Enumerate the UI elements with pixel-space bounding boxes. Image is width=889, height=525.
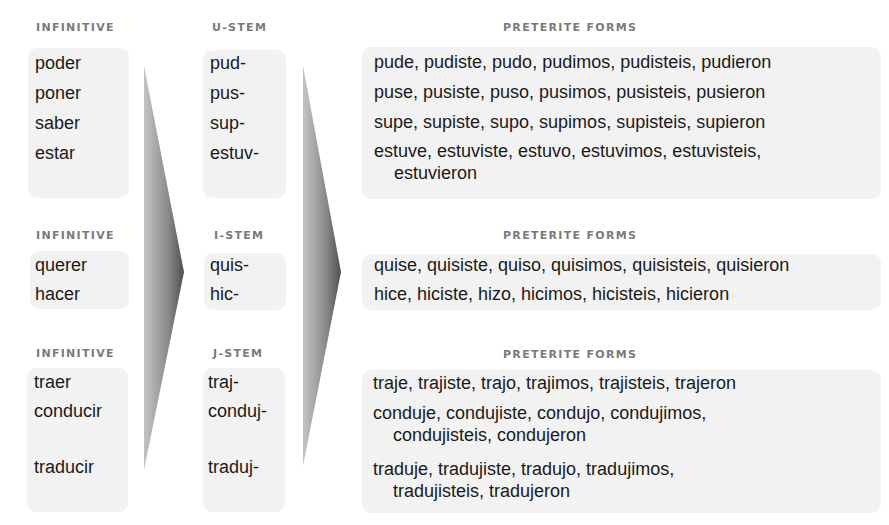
- stem: conduj-: [208, 400, 267, 422]
- preterite-form-continuation: estuvieron: [374, 162, 477, 184]
- preterite-form-row: quise, quisiste, quiso, quisimos, quisis…: [374, 254, 789, 276]
- right-arrow-icon: [140, 66, 188, 476]
- preterite-form-row: estuve, estuviste, estuvo, estuvimos, es…: [374, 140, 761, 162]
- infinitive-box: querer hacer: [30, 251, 129, 309]
- preterite-form-continuation: tradujisteis, tradujeron: [373, 480, 570, 502]
- infinitive-label: INFINITIVE: [36, 229, 115, 242]
- infinitive-box: traer conducir traducir: [27, 368, 128, 512]
- stem: estuv-: [210, 142, 259, 164]
- stem: quis-: [210, 254, 249, 276]
- stem-box: pud- pus- sup- estuv-: [203, 50, 286, 198]
- infinitive: hacer: [35, 283, 80, 305]
- stem: traduj-: [208, 456, 259, 478]
- preterite-form-row: supe, supiste, supo, supimos, supisteis,…: [374, 111, 765, 133]
- stem-label: J-STEM: [213, 347, 263, 360]
- preterite-forms-box: pude, pudiste, pudo, pudimos, pudisteis,…: [362, 47, 881, 199]
- stem-box: traj- conduj- traduj-: [203, 368, 285, 512]
- preterite-form-continuation: condujisteis, condujeron: [373, 424, 586, 446]
- preterite-form-row: traduje, tradujiste, tradujo, tradujimos…: [373, 458, 674, 480]
- infinitive: querer: [35, 254, 87, 276]
- preterite-forms-label: PRETERITE FORMS: [503, 229, 637, 242]
- infinitive: estar: [35, 142, 75, 164]
- preterite-forms-label: PRETERITE FORMS: [503, 348, 637, 361]
- stem: pus-: [210, 82, 245, 104]
- preterite-form-row: puse, pusiste, puso, pusimos, pusisteis,…: [374, 81, 765, 103]
- preterite-form-row: pude, pudiste, pudo, pudimos, pudisteis,…: [374, 51, 771, 73]
- stem-box: quis- hic-: [204, 253, 286, 310]
- preterite-forms-label: PRETERITE FORMS: [503, 21, 637, 34]
- preterite-forms-box: quise, quisiste, quiso, quisimos, quisis…: [362, 254, 881, 310]
- infinitive: saber: [35, 112, 80, 134]
- infinitive-label: INFINITIVE: [36, 21, 115, 34]
- infinitive-box: poder poner saber estar: [28, 48, 129, 198]
- stem-label: I-STEM: [214, 229, 264, 242]
- stem-label: U-STEM: [212, 21, 267, 34]
- stem: sup-: [210, 112, 245, 134]
- stem: hic-: [210, 283, 239, 305]
- infinitive: conducir: [34, 400, 102, 422]
- stem: pud-: [210, 52, 246, 74]
- stem: traj-: [208, 371, 239, 393]
- preterite-form-row: conduje, condujiste, condujo, condujimos…: [373, 402, 706, 424]
- preterite-form-row: hice, hiciste, hizo, hicimos, hicisteis,…: [374, 283, 729, 305]
- infinitive: traer: [34, 371, 71, 393]
- right-arrow-icon: [299, 66, 347, 476]
- infinitive: traducir: [34, 456, 94, 478]
- infinitive: poner: [35, 82, 81, 104]
- preterite-form-row: traje, trajiste, trajo, trajimos, trajis…: [373, 372, 736, 394]
- infinitive: poder: [35, 52, 81, 74]
- preterite-forms-box: traje, trajiste, trajo, trajimos, trajis…: [362, 370, 881, 513]
- infinitive-label: INFINITIVE: [36, 347, 115, 360]
